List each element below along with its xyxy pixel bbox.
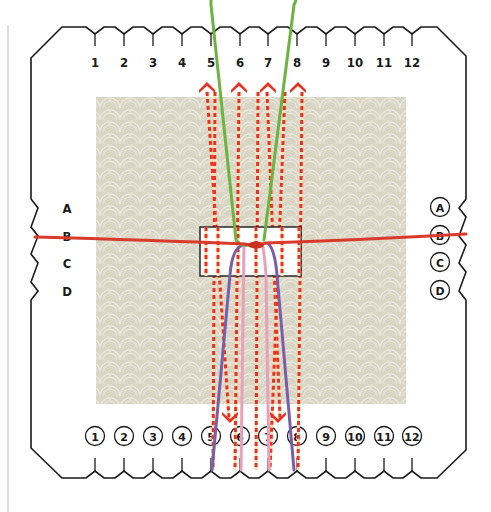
top-slot-label: 9 [322,55,330,70]
left-slot-label: C [63,256,72,271]
right-slot-label: C [431,253,450,272]
svg-text:1: 1 [91,431,99,444]
top-slot-label: 5 [207,55,215,70]
svg-text:3: 3 [149,431,157,444]
top-slot-label: 10 [347,55,363,70]
svg-text:9: 9 [322,431,330,444]
svg-text:4: 4 [178,431,186,444]
left-slot-label: D [62,284,72,299]
svg-text:C: C [436,257,444,270]
bottom-slot-label: 4 [173,427,192,446]
svg-text:2: 2 [120,431,128,444]
up-arrow-icon [199,82,215,93]
left-slot-label: A [62,201,71,216]
top-slot-labels: 123456789101112 [91,55,420,70]
svg-text:D: D [435,285,444,298]
top-slot-label: 3 [149,55,157,70]
bottom-slot-label: 9 [317,427,336,446]
up-arrow-icon [260,82,276,93]
svg-text:A: A [436,202,445,215]
top-slot-label: 7 [264,55,272,70]
top-slot-label: 2 [120,55,128,70]
svg-text:10: 10 [347,431,363,444]
right-slot-label: A [431,198,450,217]
top-slot-label: 8 [293,55,301,70]
top-slot-label: 12 [404,55,420,70]
svg-text:12: 12 [404,431,419,444]
up-arrow-icon [231,82,247,93]
bottom-slot-label: 12 [403,427,422,446]
svg-text:11: 11 [376,431,391,444]
bottom-slot-label: 2 [115,427,134,446]
top-slot-label: 4 [178,55,186,70]
center-box [200,227,301,276]
bottom-slot-label: 11 [375,427,394,446]
top-slot-label: 11 [376,55,392,70]
bottom-slot-label: 3 [144,427,163,446]
up-arrow-icon [290,82,306,93]
bottom-slot-label: 1 [86,427,105,446]
bottom-slot-label: 10 [346,427,365,446]
right-slot-labels: ABCD [431,198,450,300]
loom-diagram: 123456789101112 123456789101112 ABCD ABC… [0,0,491,512]
bottom-slot-label: 5 [202,427,221,446]
top-slot-label: 1 [91,55,99,70]
knot [248,242,264,249]
top-slot-label: 6 [236,55,244,70]
left-slot-labels: ABCD [62,201,72,299]
bottom-slot-labels: 123456789101112 [86,427,422,446]
right-slot-label: D [431,281,450,300]
